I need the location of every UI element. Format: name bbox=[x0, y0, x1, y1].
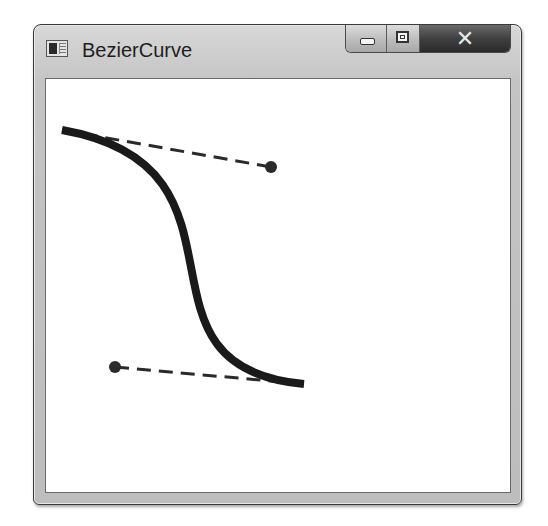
bezier-canvas bbox=[0, 0, 548, 526]
control-point-1[interactable] bbox=[265, 161, 277, 173]
control-point-2[interactable] bbox=[109, 361, 121, 373]
